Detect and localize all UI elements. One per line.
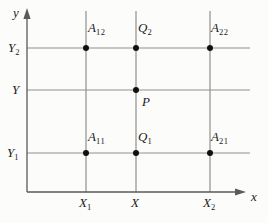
point-label-Q2: Q2 <box>138 21 152 39</box>
point-label-A21: A21 <box>211 130 228 148</box>
point-label-A11: A11 <box>88 130 105 148</box>
point-label-A22: A22 <box>211 21 228 39</box>
interpolation-grid-diagram: y x Y2 Y Y1 X1 X X2 A12 Q2 A22 P A11 Q1 … <box>0 0 268 223</box>
x-axis-label: x <box>251 190 257 203</box>
y-axis-label: y <box>13 6 19 19</box>
point-A11 <box>83 150 89 156</box>
point-A22 <box>207 45 213 51</box>
tick-label-x1: X1 <box>79 196 92 214</box>
tick-label-y2: Y2 <box>8 41 20 59</box>
tick-label-y: Y <box>12 83 19 101</box>
point-label-Q1: Q1 <box>138 130 152 148</box>
point-Q1 <box>133 150 139 156</box>
point-Q2 <box>133 45 139 51</box>
tick-label-y1: Y1 <box>7 146 19 164</box>
point-P <box>133 87 139 93</box>
y-axis-arrow-icon <box>23 8 30 19</box>
point-label-A12: A12 <box>88 21 105 39</box>
tick-label-x2: X2 <box>203 196 216 214</box>
point-label-P: P <box>142 95 150 113</box>
tick-label-x: X <box>131 196 139 214</box>
x-axis-arrow-icon <box>235 188 246 195</box>
point-A21 <box>207 150 213 156</box>
point-A12 <box>83 45 89 51</box>
